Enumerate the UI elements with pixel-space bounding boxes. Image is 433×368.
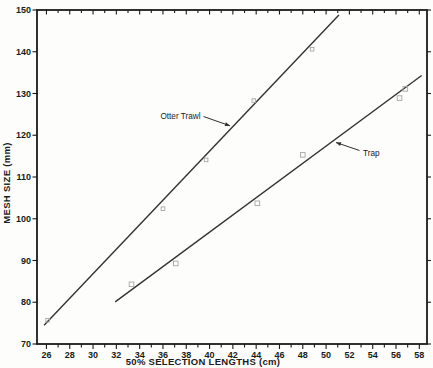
x-tick-label: 54 xyxy=(368,350,378,360)
otter-trawl-data-point xyxy=(252,99,256,103)
otter-trawl-data-point xyxy=(161,207,165,211)
annotation-trap: Trap xyxy=(336,142,380,157)
y-axis-title: MESH SIZE (mm) xyxy=(1,142,12,223)
y-tick-label: 150 xyxy=(16,5,31,15)
y-tick-label: 80 xyxy=(21,297,31,307)
y-tick-label: 110 xyxy=(16,172,31,182)
trap-data-point xyxy=(300,153,305,158)
trap-data-point xyxy=(397,96,402,101)
annotation-otter-trawl: Otter Trawl xyxy=(160,112,230,126)
y-tick-label: 140 xyxy=(16,47,31,57)
y-axis xyxy=(33,10,432,344)
x-axis xyxy=(46,10,419,349)
otter-trawl-data-point xyxy=(204,158,208,162)
x-tick-label: 48 xyxy=(298,350,308,360)
x-tick-label: 50 xyxy=(321,350,331,360)
trap-label: Trap xyxy=(363,149,380,158)
x-tick-label: 30 xyxy=(88,350,98,360)
y-tick-label: 100 xyxy=(16,214,31,224)
trap-data-point xyxy=(173,261,178,266)
trap-data-point xyxy=(255,201,260,206)
x-tick-label: 58 xyxy=(414,350,424,360)
otter-trawl-label: Otter Trawl xyxy=(160,112,200,121)
otter-trawl-data-point xyxy=(310,47,314,51)
y-tick-label: 130 xyxy=(16,89,31,99)
x-tick-label: 56 xyxy=(391,350,401,360)
y-tick-label: 90 xyxy=(21,256,31,266)
y-tick-labels: 708090100110120130140150 xyxy=(16,5,31,349)
x-tick-label: 52 xyxy=(344,350,354,360)
series-trap xyxy=(115,76,421,302)
x-axis-title: 50% SELECTION LENGTHS (cm) xyxy=(126,356,281,367)
x-tick-label: 26 xyxy=(41,350,51,360)
plot-frame xyxy=(37,10,427,344)
x-tick-label: 32 xyxy=(111,350,121,360)
x-tick-label: 28 xyxy=(65,350,75,360)
y-tick-label: 120 xyxy=(16,130,31,140)
y-tick-label: 70 xyxy=(21,339,31,349)
otter-trawl-arrow-head xyxy=(225,122,230,126)
trap-arrow-head xyxy=(336,142,341,146)
selectivity-figure: 2628303234363840424446485052545658708090… xyxy=(0,0,433,368)
trap-fit-line xyxy=(115,76,421,302)
mesh-size-vs-selection-length-chart: 2628303234363840424446485052545658708090… xyxy=(0,0,433,368)
trap-data-point xyxy=(129,282,134,287)
